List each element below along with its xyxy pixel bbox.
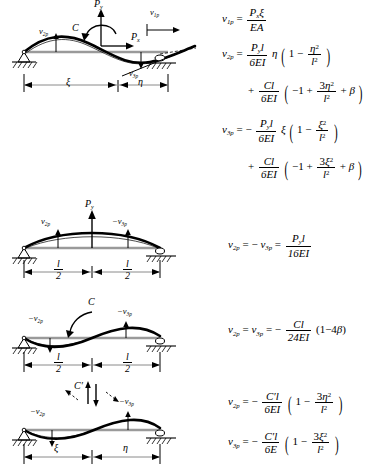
- v2p-arrow: [55, 229, 61, 248]
- label-half-l-left-case3: l 2: [52, 351, 65, 374]
- equation-group2: v2p = − v3p = Pyl 16EI: [228, 232, 313, 259]
- label-Py-case2: Py: [85, 198, 94, 210]
- v3p-arrow: [125, 229, 131, 248]
- pin-support-hinge: [22, 336, 26, 340]
- label-v1p-case1: v1p: [150, 7, 159, 18]
- v1p-dimension: [147, 24, 180, 36]
- label-Cprime-case4: C′: [74, 380, 83, 391]
- case-3-svg: [0, 288, 215, 376]
- equation-v2p-line1: v2p = Pyl 6EI η ( 1 − η2 l2 ): [222, 41, 331, 68]
- label-eta-case4: η: [123, 442, 128, 453]
- label-C-case3: C: [88, 296, 95, 307]
- Py-arrow: [88, 210, 96, 248]
- equation-group3: v2p = v3p = − Cl 24EI (1−4β): [228, 318, 346, 344]
- dimension-chain: [24, 444, 160, 464]
- label-half-l-left-case2: l 2: [52, 258, 65, 281]
- label-neg-v2p-case4: −v2p: [30, 406, 45, 417]
- ground-hatch-right: [147, 346, 171, 352]
- label-neg-v3p-case2: −v3p: [112, 216, 127, 227]
- label-v3p-case1: v3p: [129, 68, 138, 79]
- v3p-arrow: [138, 52, 144, 69]
- equation-v3p-line2: + Cl 6EI ( −1 + 3ξ2 l2 + β ): [248, 155, 363, 181]
- equation-v2p-line2: + Cl 6EI ( −1 + 3η2 l2 + β ): [248, 79, 363, 105]
- label-half-l-right-case2: l 2: [121, 258, 134, 281]
- equation-v1p: v1p = Pxξ EA: [222, 6, 268, 33]
- dimension-chain: [24, 74, 168, 92]
- case-1-svg: [0, 0, 215, 95]
- ground-hatch-left: [13, 258, 37, 264]
- label-half-l-right-case3: l 2: [121, 351, 134, 374]
- equation-group4-v3p: v3p = − C′l 6E ( 1 − 3ξ2 l2 ): [228, 430, 340, 456]
- case-2-diagram: v2p −v3p Py l 2 l 2: [0, 192, 215, 282]
- ground-hatch-left: [13, 62, 37, 68]
- pin-support-hinge: [22, 50, 26, 54]
- case-4-svg: [0, 378, 215, 467]
- deflected-shape-curve: [24, 37, 195, 63]
- label-eta-case1: η: [138, 76, 143, 87]
- label-neg-v2p-case3: −v2p: [28, 313, 43, 324]
- dimension-chain: [24, 352, 160, 372]
- equation-v3p-line1: v3p = − Pyl 6EI ξ ( 1 − ξ2 l2 ): [222, 117, 339, 144]
- label-v2p-case2: v2p: [41, 216, 50, 227]
- label-C-case1: C: [72, 22, 79, 33]
- case-4-diagram: −v2p −v3p C′ ξ η: [0, 378, 215, 467]
- Py-arrowhead: [97, 9, 104, 17]
- case-2-svg: [0, 192, 215, 282]
- ground-hatch-left: [13, 440, 37, 446]
- label-Px-case1: Px: [131, 31, 140, 43]
- couple-arrow: [66, 312, 92, 338]
- case-3-diagram: −v2p −v3p C l 2 l 2: [0, 288, 215, 376]
- ground-hatch-right: [147, 256, 171, 262]
- dimension-chain: [24, 260, 160, 278]
- pin-support-hinge: [22, 246, 26, 250]
- label-xi-case1: ξ: [66, 76, 70, 87]
- ground-hatch-left: [13, 348, 37, 354]
- case-1-diagram: v2p v3p v1p Py Px C ξ η: [0, 0, 215, 95]
- Px-arrowhead: [126, 43, 134, 50]
- label-v2p-case1: v2p: [39, 26, 48, 37]
- label-Py-case1: Py: [94, 0, 103, 10]
- figure-page: v2p v3p v1p Py Px C ξ η: [0, 0, 378, 467]
- pin-support-hinge: [22, 428, 26, 432]
- label-neg-v3p-case4: −v3p: [119, 396, 134, 407]
- label-xi-case4: ξ: [54, 442, 58, 453]
- label-neg-v3p-case3: −v3p: [117, 306, 132, 317]
- ground-hatch-right: [147, 438, 171, 444]
- equation-group4-v2p: v2p = − C′l 6EI ( 1 − 3η2 l2 ): [228, 390, 343, 416]
